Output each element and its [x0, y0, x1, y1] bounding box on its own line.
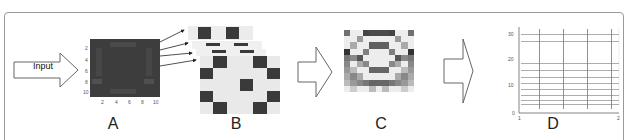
panel-a-ytick: 4 — [85, 57, 88, 63]
panel-label-d: D — [543, 115, 563, 133]
panel-label-b: B — [226, 115, 246, 133]
panel-c-pattern — [344, 30, 414, 92]
panel-d-ytick: 20 — [508, 56, 514, 62]
panel-label-c: C — [371, 115, 391, 133]
panel-a-ytick: 10 — [83, 89, 89, 95]
panel-a-ytick: 6 — [85, 68, 88, 74]
panel-d-raster — [505, 25, 623, 120]
panel-d-ytick: 0 — [512, 110, 515, 116]
input-label: Input — [17, 61, 69, 71]
panel-a-xtick: 8 — [141, 99, 144, 105]
panel-d-ytick: 30 — [508, 31, 514, 37]
panel-a-ytick: 8 — [85, 79, 88, 85]
panel-label-a: A — [103, 115, 123, 133]
panel-a-xtick: 6 — [128, 99, 131, 105]
panel-d-xtick: 1 — [518, 115, 521, 121]
panel-d-xtick: 2 — [617, 115, 620, 121]
arrow-c-to-d-icon — [443, 36, 475, 106]
arrow-b-to-c-icon — [296, 44, 336, 100]
panel-d-ytick: 10 — [508, 82, 514, 88]
panel-a-xtick: 4 — [115, 99, 118, 105]
panel-a-xtick: 2 — [101, 99, 104, 105]
panel-a-ytick: 2 — [85, 45, 88, 51]
panel-b-stack — [186, 26, 281, 108]
panel-a-heatmap — [90, 39, 160, 97]
panel-a-xtick: 10 — [153, 99, 159, 105]
